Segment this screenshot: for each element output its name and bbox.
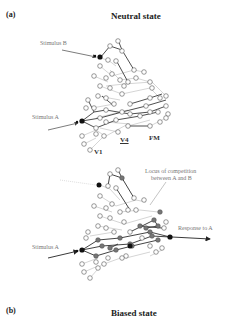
panel-a-network [48,39,170,153]
input-node-b [97,54,102,59]
stimulus-a-arrow-b [48,251,78,258]
panel-b-network [48,168,210,281]
input-node-a-b [79,247,84,252]
stimulus-a-arrow [48,123,78,130]
stimulus-b-arrow [62,50,96,57]
network-diagram [0,0,238,320]
output-node [167,234,172,239]
response-arrow [172,237,210,239]
input-node-a [79,118,84,123]
inactive-input-node-b [97,183,102,188]
